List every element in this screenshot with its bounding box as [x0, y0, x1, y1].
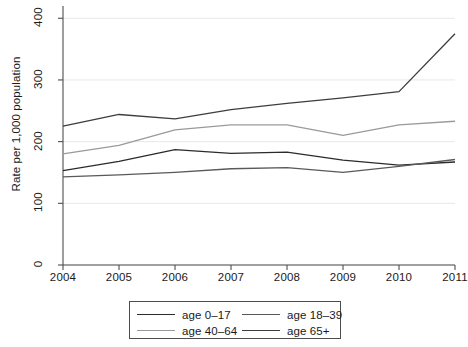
legend-line-swatch — [137, 314, 175, 315]
legend-item: age 65+ — [242, 323, 330, 338]
series-line-age-18-39 — [63, 160, 455, 177]
line-chart-figure: Rate per 1,000 population 0100200300400 … — [0, 0, 468, 347]
legend-item: age 18–39 — [242, 307, 342, 322]
legend-item: age 0–17 — [137, 307, 231, 322]
x-axis-tick-marks — [63, 265, 455, 270]
legend-line-swatch — [137, 330, 175, 331]
legend-label: age 0–17 — [182, 309, 231, 321]
legend-item: age 40–64 — [137, 323, 237, 338]
legend-line-swatch — [242, 330, 280, 331]
data-series-lines — [63, 34, 455, 177]
chart-legend: age 0–17age 18–39age 40–64age 65+ — [129, 301, 341, 339]
plot-area — [0, 0, 468, 347]
legend-label: age 40–64 — [182, 325, 237, 337]
legend-label: age 18–39 — [287, 309, 342, 321]
legend-label: age 65+ — [287, 325, 330, 337]
gridlines — [63, 18, 455, 265]
series-line-age-40-64 — [63, 121, 455, 154]
series-line-age-0-17 — [63, 150, 455, 171]
legend-line-swatch — [242, 314, 280, 315]
y-axis-tick-marks — [58, 18, 63, 265]
